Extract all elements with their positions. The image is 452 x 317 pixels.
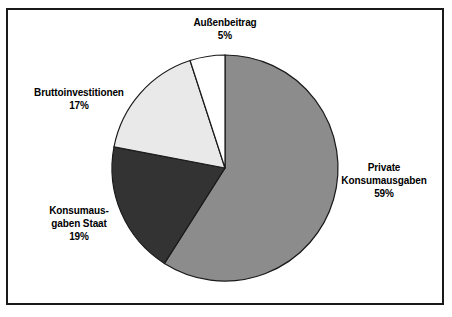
pie-label-aussenbeitrag: Außenbeitrag 5%	[140, 16, 310, 42]
pie-label-aussenbeitrag-name: Außenbeitrag	[140, 16, 310, 29]
pie-chart-figure: Außenbeitrag 5% Bruttoinvestitionen 17% …	[0, 0, 452, 317]
pie-label-bruttoinvestitionen: Bruttoinvestitionen 17%	[6, 86, 152, 112]
pie-label-bruttoinvestitionen-value: 17%	[6, 99, 152, 112]
pie-label-private-konsumausgaben-name-line2: Konsumausgaben	[326, 174, 442, 187]
pie-label-bruttoinvestitionen-name: Bruttoinvestitionen	[6, 86, 152, 99]
pie-label-konsumausgaben-staat-name-line1: Konsumaus-	[16, 204, 142, 217]
pie-chart-graphic	[0, 0, 452, 317]
pie-label-konsumausgaben-staat-value: 19%	[16, 230, 142, 243]
pie-label-private-konsumausgaben-value: 59%	[326, 187, 442, 200]
pie-label-private-konsumausgaben-name-line1: Private	[326, 161, 442, 174]
pie-label-aussenbeitrag-value: 5%	[140, 29, 310, 42]
pie-label-private-konsumausgaben: Private Konsumausgaben 59%	[326, 161, 442, 200]
pie-label-konsumausgaben-staat-name-line2: gaben Staat	[16, 217, 142, 230]
pie-label-konsumausgaben-staat: Konsumaus- gaben Staat 19%	[16, 204, 142, 243]
